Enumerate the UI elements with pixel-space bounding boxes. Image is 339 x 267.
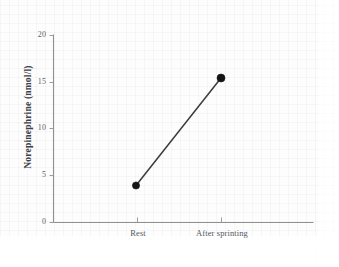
x-tick-label-after-sprinting: After sprinting bbox=[176, 229, 268, 238]
chart-figure: 20 15 10 5 0 Rest After sprinting Norepi… bbox=[0, 0, 339, 267]
x-tick-label-rest: Rest bbox=[108, 229, 168, 238]
data-point-after-sprinting bbox=[217, 74, 225, 82]
series-line-norepinephrine bbox=[136, 78, 221, 186]
y-axis-title: Norepinephrine (nmol/l) bbox=[23, 37, 33, 197]
y-tick-label-0: 0 bbox=[22, 218, 46, 226]
data-point-rest bbox=[132, 182, 139, 189]
line-chart-plot bbox=[0, 0, 339, 267]
